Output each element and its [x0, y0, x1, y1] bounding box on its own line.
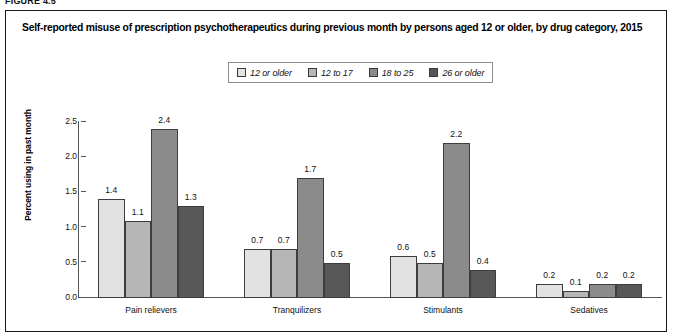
- bar: [470, 270, 497, 298]
- category-label: Pain relievers: [78, 305, 224, 315]
- bar: [563, 291, 590, 298]
- bar-value-label: 2.2: [437, 129, 476, 139]
- category-label: Sedatives: [516, 305, 662, 315]
- bar-value-label: 1.4: [92, 185, 131, 195]
- category-label: Tranquilizers: [224, 305, 370, 315]
- bar-value-label: 1.7: [291, 164, 330, 174]
- bar: [324, 263, 351, 298]
- bar: [390, 256, 417, 298]
- bar: [271, 249, 298, 298]
- bar: [244, 249, 271, 298]
- bar-value-label: 0.4: [464, 256, 503, 266]
- category-label: Stimulants: [370, 305, 516, 315]
- bar-value-label: 0.2: [610, 270, 649, 280]
- bar: [178, 206, 205, 298]
- bar-value-label: 2.4: [145, 115, 184, 125]
- bar-value-label: 0.5: [318, 249, 357, 259]
- bar: [443, 143, 470, 298]
- bar: [616, 284, 643, 298]
- bar-value-label: 1.3: [172, 192, 211, 202]
- bar: [417, 263, 444, 298]
- bar: [125, 221, 152, 298]
- bar: [151, 129, 178, 298]
- bar: [297, 178, 324, 298]
- bars-layer: 1.41.12.41.30.70.71.70.50.60.52.20.40.20…: [0, 0, 674, 298]
- bar: [589, 284, 616, 298]
